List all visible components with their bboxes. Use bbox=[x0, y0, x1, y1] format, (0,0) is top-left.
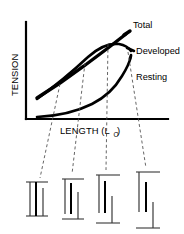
x-axis-label-main: LENGTH (L bbox=[60, 125, 110, 136]
developed-label-pointer bbox=[127, 48, 134, 51]
total-label-pointer bbox=[124, 31, 130, 35]
developed-curve-label: Developed bbox=[136, 46, 180, 56]
length-tension-figure: TENSION LENGTH (L O ) Total Developed Re… bbox=[0, 0, 184, 234]
sarcomere-panel-2 bbox=[62, 179, 84, 219]
y-axis-label-group: TENSION bbox=[9, 54, 20, 96]
sarcomere-panel-4 bbox=[136, 172, 160, 228]
sarcomere-panel-1 bbox=[26, 182, 48, 216]
leader-line-1 bbox=[40, 84, 60, 178]
y-axis-label: TENSION bbox=[9, 54, 20, 96]
resting-curve-label: Resting bbox=[136, 72, 167, 82]
leader-line-3 bbox=[106, 44, 108, 170]
resting-label-pointer bbox=[130, 55, 131, 59]
axes-group bbox=[26, 22, 168, 119]
curves-group bbox=[37, 34, 131, 117]
x-axis-label-close-paren: ) bbox=[117, 125, 120, 136]
leader-lines-group bbox=[40, 44, 146, 178]
curve-labels-group: Total Developed Resting bbox=[133, 20, 180, 82]
x-axis-label-group: LENGTH (L O ) bbox=[60, 125, 120, 138]
sarcomere-panel-3 bbox=[96, 175, 120, 223]
leader-line-4 bbox=[128, 52, 146, 168]
total-curve-label: Total bbox=[133, 20, 152, 30]
figure-canvas: TENSION LENGTH (L O ) Total Developed Re… bbox=[0, 0, 184, 234]
